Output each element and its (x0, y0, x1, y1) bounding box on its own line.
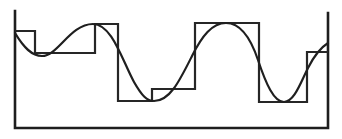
frame-axes (15, 11, 328, 128)
waveform-svg (0, 0, 342, 139)
waveform-diagram (0, 0, 342, 139)
smooth-waveform (15, 23, 328, 102)
